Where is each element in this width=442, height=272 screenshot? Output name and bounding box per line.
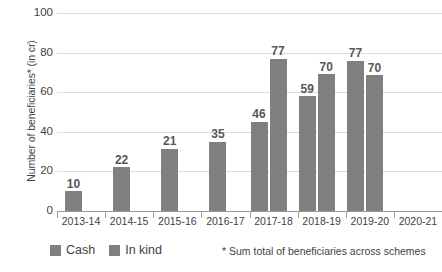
y-tick-label-100: 100 <box>13 7 53 19</box>
y-axis-title: Number of beneficiaries* (in cr) <box>25 11 37 211</box>
y-tick-label-80: 80 <box>13 47 53 59</box>
bar-label-cash-2014-15: 22 <box>108 154 135 166</box>
bar-chart: Number of beneficiaries* (in cr) 100 80 … <box>0 0 442 272</box>
gridline-80 <box>57 53 442 54</box>
bar-label-cash-2016-17: 35 <box>204 128 231 140</box>
y-tick-label-20: 20 <box>13 165 53 177</box>
bar-label-cash-2018-19: 59 <box>294 83 321 95</box>
legend-swatch-cash-icon <box>50 245 61 256</box>
bar-label-inkind-2017-18: 77 <box>265 45 292 57</box>
x-tick-label-2020-21: 2020-21 <box>394 215 442 227</box>
x-tick-label-2019-20: 2019-20 <box>346 215 394 227</box>
bar-inkind-2017-18 <box>270 59 287 212</box>
chart-footnote: * Sum total of beneficiaries across sche… <box>222 245 426 257</box>
gridline-40 <box>57 132 442 133</box>
legend-swatch-in-kind-icon <box>109 245 120 256</box>
plot-area: 100 80 60 40 20 0 10 22 21 35 46 77 59 7… <box>57 13 442 211</box>
legend-item-in-kind[interactable]: In kind <box>109 243 162 257</box>
bar-cash-2013-14 <box>65 191 82 211</box>
chart-legend: Cash In kind <box>50 243 162 257</box>
gridline-60 <box>57 92 442 93</box>
bar-label-cash-2013-14: 10 <box>60 178 87 190</box>
x-tick-label-2018-19: 2018-19 <box>298 215 346 227</box>
x-tick-label-2017-18: 2017-18 <box>250 215 298 227</box>
bar-cash-2016-17 <box>209 142 226 211</box>
x-tick-label-2016-17: 2016-17 <box>201 215 249 227</box>
x-tick-label-2013-14: 2013-14 <box>57 215 105 227</box>
bar-cash-2017-18 <box>251 122 268 211</box>
legend-label-cash: Cash <box>66 243 95 257</box>
bar-inkind-2019-20 <box>366 75 383 211</box>
x-tick-label-2015-16: 2015-16 <box>153 215 201 227</box>
bar-label-cash-2017-18: 46 <box>246 108 273 120</box>
bar-label-inkind-2018-19: 70 <box>313 61 340 73</box>
x-tick-label-2014-15: 2014-15 <box>105 215 153 227</box>
gridline-100 <box>57 13 442 14</box>
bar-label-inkind-2019-20: 70 <box>361 62 388 74</box>
legend-item-cash[interactable]: Cash <box>50 243 95 257</box>
y-tick-label-0: 0 <box>13 205 53 217</box>
y-tick-label-60: 60 <box>13 86 53 98</box>
bar-cash-2015-16 <box>161 149 178 211</box>
x-axis: 2013-14 2014-15 2015-16 2016-17 2017-18 … <box>57 212 442 232</box>
bar-cash-2014-15 <box>113 167 130 211</box>
legend-label-in-kind: In kind <box>125 243 162 257</box>
y-tick-label-40: 40 <box>13 126 53 138</box>
bar-inkind-2018-19 <box>318 74 335 211</box>
bar-cash-2019-20 <box>347 61 364 212</box>
bar-cash-2018-19 <box>299 96 316 211</box>
bar-label-cash-2019-20: 77 <box>342 47 369 59</box>
bar-label-cash-2015-16: 21 <box>156 135 183 147</box>
